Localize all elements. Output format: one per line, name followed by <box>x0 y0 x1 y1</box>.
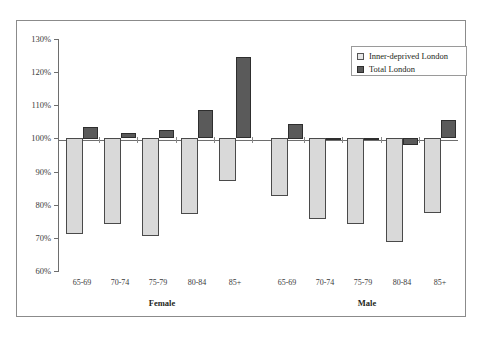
x-axis-tick <box>176 137 177 143</box>
y-axis-label: 110% <box>17 101 51 110</box>
x-axis-label: 85+ <box>213 279 257 287</box>
y-axis-tick <box>54 105 59 106</box>
y-axis-tick <box>54 172 59 173</box>
bar-total-london <box>236 57 251 138</box>
y-axis-label: 70% <box>17 234 51 243</box>
chart-frame: 130%120%110%100%90%80%70%60%65-6970-7475… <box>16 20 466 317</box>
legend-item-total-london: Total London <box>357 64 461 75</box>
bar-inner-deprived-london <box>347 138 364 224</box>
bar-total-london <box>159 130 174 138</box>
bar-inner-deprived-london <box>386 138 403 242</box>
bar-total-london <box>441 120 456 138</box>
x-axis-tick <box>342 137 343 143</box>
y-axis-label: 100% <box>17 134 51 143</box>
chart-container: 130%120%110%100%90%80%70%60%65-6970-7475… <box>0 0 484 337</box>
y-axis-tick <box>54 238 59 239</box>
y-axis-label: 120% <box>17 68 51 77</box>
y-axis-line <box>58 39 59 271</box>
chart-legend: Inner-deprived London Total London <box>351 46 467 76</box>
y-axis-label: 90% <box>17 168 51 177</box>
x-axis-tick <box>304 137 305 143</box>
bar-inner-deprived-london <box>66 138 83 234</box>
bar-inner-deprived-london <box>424 138 441 213</box>
x-axis-label: 75-79 <box>136 279 180 287</box>
bar-total-london <box>288 124 303 139</box>
y-axis-label: 60% <box>17 267 51 276</box>
bar-total-london <box>364 138 379 140</box>
legend-swatch-icon-light <box>357 53 364 60</box>
bar-total-london <box>403 138 418 145</box>
bar-total-london <box>121 133 136 138</box>
x-axis-tick <box>214 137 215 143</box>
y-axis-label: 130% <box>17 35 51 44</box>
bar-inner-deprived-london <box>271 138 288 196</box>
y-axis-tick <box>54 39 59 40</box>
y-axis-tick <box>54 138 59 139</box>
x-axis-tick <box>137 137 138 143</box>
group-label: Male <box>327 299 407 308</box>
bar-inner-deprived-london <box>104 138 121 224</box>
legend-label-total-london: Total London <box>369 65 415 74</box>
x-axis-label: 75-79 <box>341 279 385 287</box>
bar-total-london <box>83 127 98 139</box>
x-axis-tick <box>99 137 100 143</box>
legend-label-inner-deprived-london: Inner-deprived London <box>369 52 448 61</box>
bar-total-london <box>198 110 213 138</box>
x-axis-tick <box>252 137 253 143</box>
y-axis-tick <box>54 72 59 73</box>
y-axis-tick <box>54 271 59 272</box>
bar-inner-deprived-london <box>219 138 236 181</box>
bar-total-london <box>326 138 341 140</box>
bar-inner-deprived-london <box>142 138 159 236</box>
y-axis-tick <box>54 205 59 206</box>
x-axis-tick <box>419 137 420 143</box>
x-axis-tick <box>381 137 382 143</box>
legend-item-inner-deprived-london: Inner-deprived London <box>357 51 461 62</box>
bar-inner-deprived-london <box>309 138 326 219</box>
group-label: Female <box>122 299 202 308</box>
legend-swatch-icon-dark <box>357 66 364 73</box>
x-axis-label: 85+ <box>418 279 462 287</box>
bar-inner-deprived-london <box>181 138 198 214</box>
y-axis-label: 80% <box>17 201 51 210</box>
